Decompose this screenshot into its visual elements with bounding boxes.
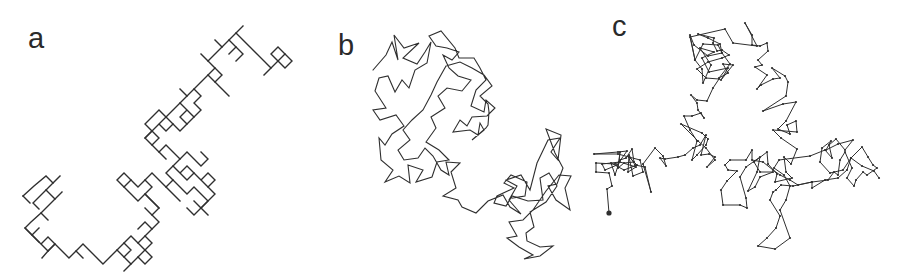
walk-node-dot (720, 79, 722, 81)
walk-node-dot (696, 68, 698, 70)
walk-node-dot (746, 207, 748, 209)
walk-node-dot (796, 148, 798, 150)
walk-node-dot (739, 176, 741, 178)
walk-node-dot (878, 177, 880, 179)
continuous-walk-path (373, 31, 571, 259)
lattice-walk-segment (152, 131, 180, 159)
lattice-walk-segment (138, 243, 152, 264)
lattice-walk-segment (25, 199, 55, 235)
walk-node-dot (861, 146, 863, 148)
walk-node-dot (779, 215, 781, 217)
walk-node-dot (759, 45, 761, 47)
walk-node-dot (659, 157, 661, 159)
walk-node-dot (779, 209, 781, 211)
walk-node-dot (792, 185, 794, 187)
walk-node-dot (853, 185, 855, 187)
walk-node-dot (791, 177, 793, 179)
walk-node-dot (714, 159, 716, 161)
walk-node-dot (689, 36, 691, 38)
walk-node-dot (756, 171, 758, 173)
walk-node-dot (664, 158, 666, 160)
walk-node-dot (610, 162, 612, 164)
walk-node-dot (762, 161, 764, 163)
walk-node-dot (701, 68, 703, 70)
walk-node-dot (639, 159, 641, 161)
walk-node-dot (633, 161, 635, 163)
walk-node-dot (821, 147, 823, 149)
walk-node-dot (721, 52, 723, 54)
walk-node-dot (851, 167, 853, 169)
walk-node-dot (718, 77, 720, 79)
walk-node-dot (614, 163, 616, 165)
lattice-walk-segment (236, 33, 285, 68)
walk-node-dot (846, 169, 848, 171)
lattice-walk-segment (166, 166, 194, 180)
walk-node-dot (819, 161, 821, 163)
walk-node-dot (705, 134, 707, 136)
walk-node-dot (830, 140, 832, 142)
walk-node-dot (700, 112, 702, 114)
walk-node-dot (754, 66, 756, 68)
walk-node-dot (861, 165, 863, 167)
walk-node-dot (745, 166, 747, 168)
walk-node-dot (601, 163, 603, 165)
lattice-walk-segment (117, 236, 152, 264)
walk-node-dot (787, 81, 789, 83)
walk-node-dot (772, 171, 774, 173)
lattice-walk-segment (145, 117, 173, 145)
walk-node-dot (721, 57, 723, 59)
walk-node-dot (732, 64, 734, 66)
walk-node-dot (757, 59, 759, 61)
walk-node-dot (776, 173, 778, 175)
walk-node-dot (724, 28, 726, 30)
walk-node-dot (767, 163, 769, 165)
walk-node-dot (710, 64, 712, 66)
walk-node-dot (689, 129, 691, 131)
walk-node-dot (697, 109, 699, 111)
walk-node-dot (595, 171, 597, 173)
walk-node-dot (720, 189, 722, 191)
walk-node-dot (827, 179, 829, 181)
walk-node-dot (636, 164, 638, 166)
walk-node-dot (611, 185, 613, 187)
walk-node-dot (772, 129, 774, 131)
walk-node-dot (713, 51, 715, 53)
walk-node-dot (677, 156, 679, 158)
panel-a-lattice-random-walk: a (0, 0, 320, 277)
walk-node-dot (766, 42, 768, 44)
walk-node-dot (783, 174, 785, 176)
walk-node-dot (756, 45, 758, 47)
walk-node-dot (824, 179, 826, 181)
walk-node-dot (797, 184, 799, 186)
walk-node-dot (604, 169, 606, 171)
lattice-walk-segment (264, 68, 271, 75)
walk-node-dot (706, 100, 708, 102)
walk-node-dot (785, 120, 787, 122)
walk-node-dot (825, 149, 827, 151)
walk-node-dot (702, 43, 704, 45)
walk-node-dot (867, 156, 869, 158)
walk-node-dot (772, 191, 774, 193)
walk-node-dot (665, 165, 667, 167)
dotted-walk-path (594, 23, 879, 249)
walk-node-dot (774, 181, 776, 183)
walk-node-dot (716, 50, 718, 52)
walk-node-dot (783, 156, 785, 158)
walk-node-dot (844, 151, 846, 153)
walk-node-dot (759, 156, 761, 158)
lattice-walk-segment (145, 208, 159, 229)
walk-node-dot (703, 117, 705, 119)
walk-node-dot (708, 153, 710, 155)
walk-node-dot (606, 188, 608, 190)
walk-node-dot (767, 50, 769, 52)
walk-node-dot (617, 167, 619, 169)
walk-node-dot (780, 184, 782, 186)
walk-node-dot (617, 151, 619, 153)
walk-node-dot (691, 115, 693, 117)
walk-node-dot (680, 123, 682, 125)
lattice-walk-segment (194, 173, 215, 187)
walk-node-dot (751, 34, 753, 36)
walk-node-dot (706, 166, 708, 168)
walk-node-dot (837, 177, 839, 179)
walk-node-dot (876, 167, 878, 169)
